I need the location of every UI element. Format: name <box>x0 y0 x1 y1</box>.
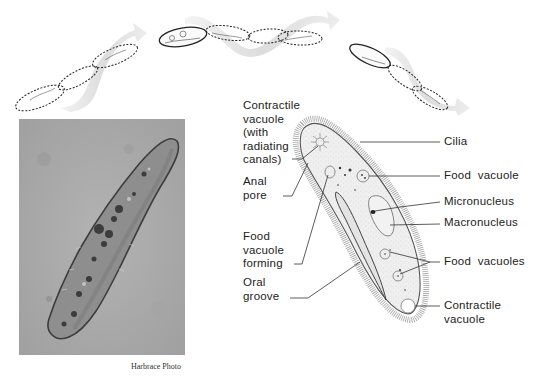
label-anal-pore: Anal pore <box>243 175 267 202</box>
paramecium-diagram <box>0 0 538 388</box>
label-cilia: Cilia <box>444 135 467 149</box>
cell-body <box>300 123 420 314</box>
contractile-vacuole-bottom <box>401 299 415 313</box>
label-micronucleus: Micronucleus <box>444 195 514 209</box>
label-food-vacuole: Food vacuole <box>444 169 519 183</box>
label-food-vacuoles: Food vacuoles <box>444 255 525 269</box>
label-food-vacuole-forming: Food vacuole forming <box>243 230 284 271</box>
label-contractile-vacuole-canals: Contractile vacuole (with radiating cana… <box>243 99 300 167</box>
label-macronucleus: Macronucleus <box>444 216 518 230</box>
paramecium-drawing <box>0 0 538 388</box>
label-contractile-vacuole: Contractile vacuole <box>444 299 501 326</box>
label-oral-groove: Oral groove <box>243 276 279 303</box>
micronucleus <box>371 210 376 214</box>
